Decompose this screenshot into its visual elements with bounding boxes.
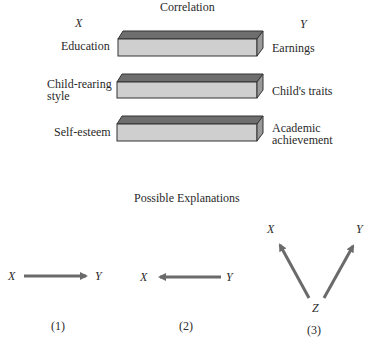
explanation-3-x: X bbox=[267, 223, 274, 236]
explanation-2-number: (2) bbox=[179, 320, 193, 333]
explanations-title: Possible Explanations bbox=[134, 192, 240, 205]
explanation-1-y: Y bbox=[95, 270, 102, 283]
arrow-z-to-x-icon bbox=[280, 245, 309, 298]
correlation-bar-2 bbox=[117, 74, 263, 98]
explanation-3-number: (3) bbox=[307, 324, 321, 337]
correlation-bar-3 bbox=[117, 116, 263, 141]
correlation-bar-1 bbox=[118, 31, 263, 56]
arrow-z-to-y-icon bbox=[324, 246, 353, 298]
explanation-1-x: X bbox=[8, 270, 15, 283]
diagram-graphics bbox=[0, 0, 381, 352]
explanation-2-x: X bbox=[140, 271, 147, 284]
explanation-3-z: Z bbox=[312, 302, 319, 315]
explanation-3-y: Y bbox=[356, 223, 363, 236]
explanation-1-number: (1) bbox=[51, 320, 65, 333]
explanation-2-y: Y bbox=[226, 271, 233, 284]
